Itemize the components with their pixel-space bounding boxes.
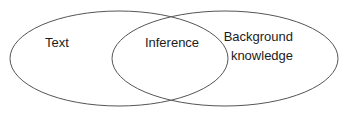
venn-diagram: Text Inference Background knowledge bbox=[0, 0, 349, 119]
intersection-label-inference: Inference bbox=[145, 35, 199, 50]
set-label-background-knowledge-line-2: knowledge bbox=[231, 48, 293, 63]
set-label-text: Text bbox=[45, 35, 69, 50]
venn-diagram-canvas: Text Inference Background knowledge bbox=[0, 0, 349, 119]
set-label-background-knowledge-line-1: Background bbox=[224, 29, 293, 44]
set-ellipse-text bbox=[10, 11, 228, 106]
set-label-background-knowledge: Background knowledge bbox=[224, 29, 319, 63]
